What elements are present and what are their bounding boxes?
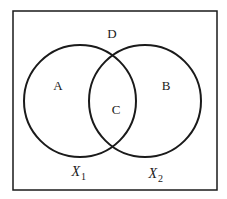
set-x2-subscript: 2 bbox=[158, 173, 163, 184]
set-x1-subscript: 1 bbox=[81, 171, 86, 182]
set-x1-label: X 1 bbox=[70, 164, 86, 182]
universe-label: D bbox=[107, 26, 116, 41]
set-x1-circle bbox=[24, 45, 136, 157]
set-x2-name: X bbox=[147, 166, 157, 181]
region-b-label: B bbox=[162, 78, 171, 93]
set-x2-circle bbox=[89, 45, 201, 157]
set-x1-name: X bbox=[70, 164, 80, 179]
venn-diagram: D A B C X 1 X 2 bbox=[0, 0, 227, 199]
region-a-label: A bbox=[53, 78, 63, 93]
set-x2-label: X 2 bbox=[147, 166, 163, 184]
intersection-label: C bbox=[112, 102, 121, 117]
